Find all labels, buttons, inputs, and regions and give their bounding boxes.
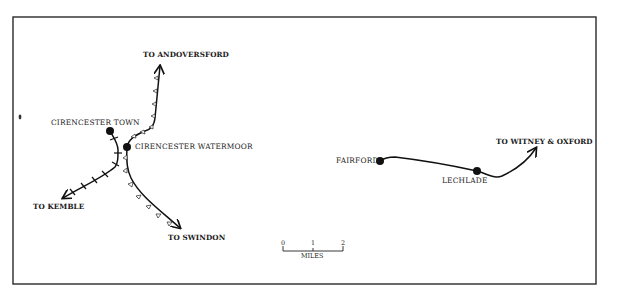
- station-dot-lechlade: [473, 167, 481, 175]
- scale-bar: 0 1 2 MILES: [281, 239, 345, 260]
- label-to-andoversford: TO ANDOVERSFORD: [143, 50, 229, 59]
- label-fairford: FAIRFORD: [336, 156, 379, 165]
- railway-map: TO ANDOVERSFORD CIRENCESTER TOWN CIRENCE…: [0, 0, 633, 303]
- line-to-andoversford: [127, 66, 160, 147]
- scale-unit-label: MILES: [301, 252, 323, 260]
- station-dot-cirencester-watermoor: [123, 143, 131, 151]
- map-frame: [13, 17, 596, 284]
- label-cirencester-watermoor: CIRENCESTER WATERMOOR: [135, 142, 253, 151]
- line-to-swindon: [123, 147, 180, 228]
- line-to-kemble: [63, 131, 122, 198]
- scale-tick-1: 1: [311, 239, 315, 247]
- label-to-witney-oxford: TO WITNEY & OXFORD: [496, 137, 593, 146]
- scale-tick-2: 2: [341, 239, 345, 247]
- label-to-swindon: TO SWINDON: [168, 233, 226, 242]
- label-cirencester-town: CIRENCESTER TOWN: [51, 118, 140, 127]
- line-fairford-to-witney: [380, 148, 536, 177]
- station-dot-cirencester-town: [106, 127, 114, 135]
- ink-speck: [19, 115, 22, 120]
- label-to-kemble: TO KEMBLE: [33, 202, 85, 211]
- label-lechlade: LECHLADE: [442, 176, 488, 185]
- scale-tick-0: 0: [281, 239, 285, 247]
